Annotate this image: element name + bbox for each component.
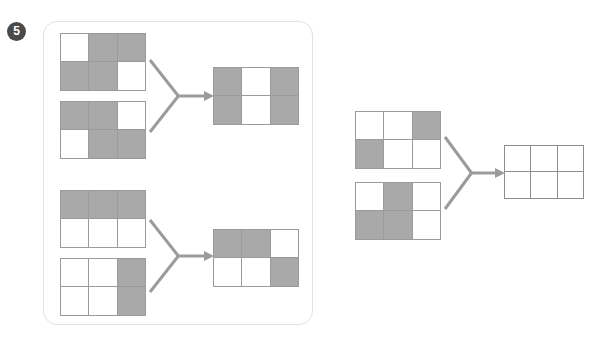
grid-cell-r1-c1	[213, 67, 243, 97]
grid-cell-r2-c2	[88, 61, 118, 91]
grid-cell-r2-c1[interactable]	[504, 171, 532, 199]
grid-cell-r1-c2	[383, 182, 413, 212]
grid-cell-r2-c1	[213, 257, 243, 287]
grid-cell-r1-c3	[117, 33, 147, 63]
grid-cell-r2-c2	[383, 139, 413, 169]
grid-cell-r2-c3	[117, 61, 147, 91]
grid-cell-r2-c1	[355, 210, 385, 240]
grid-cell-r2-c1	[60, 61, 90, 91]
grid-cell-r1-c2	[88, 101, 118, 131]
grid-cell-r2-c2	[88, 286, 118, 316]
input-grid-2	[60, 101, 146, 158]
grid-cell-r1-c2[interactable]	[530, 145, 558, 173]
grid-cell-r1-c2	[383, 111, 413, 141]
grid-cell-r2-c2	[88, 218, 118, 248]
grid-cell-r1-c3	[412, 182, 442, 212]
input-grid-4	[60, 258, 146, 315]
grid-cell-r1-c3	[270, 67, 300, 97]
grid-cell-r1-c3	[117, 190, 147, 220]
question-number-badge: 5	[7, 22, 26, 41]
grid-cell-r1-c2	[88, 190, 118, 220]
input-grid-5	[355, 111, 441, 168]
grid-cell-r2-c1	[60, 286, 90, 316]
grid-cell-r1-c2	[241, 67, 271, 97]
grid-cell-r2-c3	[117, 218, 147, 248]
grid-cell-r1-c1	[355, 111, 385, 141]
answer-grid[interactable]	[504, 145, 584, 198]
grid-cell-r1-c2	[241, 229, 271, 259]
grid-cell-r1-c3	[117, 101, 147, 131]
input-grid-6	[355, 182, 441, 239]
grid-cell-r2-c3	[117, 129, 147, 159]
grid-cell-r2-c1	[213, 95, 243, 125]
grid-cell-r1-c1	[60, 33, 90, 63]
output-grid-1	[213, 67, 299, 124]
grid-cell-r2-c2	[88, 129, 118, 159]
input-grid-3	[60, 190, 146, 247]
grid-cell-r2-c2	[241, 95, 271, 125]
grid-cell-r2-c2[interactable]	[530, 171, 558, 199]
grid-cell-r1-c3	[117, 258, 147, 288]
grid-cell-r2-c1	[60, 129, 90, 159]
grid-cell-r1-c2	[88, 258, 118, 288]
grid-cell-r1-c3	[412, 111, 442, 141]
output-grid-2	[213, 229, 299, 286]
grid-cell-r2-c1	[60, 218, 90, 248]
grid-cell-r2-c2	[383, 210, 413, 240]
grid-cell-r2-c3	[270, 257, 300, 287]
input-grid-1	[60, 33, 146, 90]
merge-arrow-3	[443, 135, 505, 211]
grid-cell-r2-c3	[117, 286, 147, 316]
grid-cell-r1-c3[interactable]	[557, 145, 585, 173]
grid-cell-r1-c1	[213, 229, 243, 259]
grid-cell-r2-c1	[355, 139, 385, 169]
grid-cell-r1-c1	[60, 258, 90, 288]
grid-cell-r2-c3[interactable]	[557, 171, 585, 199]
grid-cell-r1-c1	[60, 101, 90, 131]
grid-cell-r2-c3	[412, 210, 442, 240]
grid-cell-r1-c2	[88, 33, 118, 63]
grid-cell-r2-c3	[270, 95, 300, 125]
worksheet-canvas: 5	[0, 0, 603, 346]
grid-cell-r1-c1[interactable]	[504, 145, 532, 173]
grid-cell-r1-c1	[355, 182, 385, 212]
grid-cell-r2-c3	[412, 139, 442, 169]
grid-cell-r2-c2	[241, 257, 271, 287]
grid-cell-r1-c1	[60, 190, 90, 220]
grid-cell-r1-c3	[270, 229, 300, 259]
